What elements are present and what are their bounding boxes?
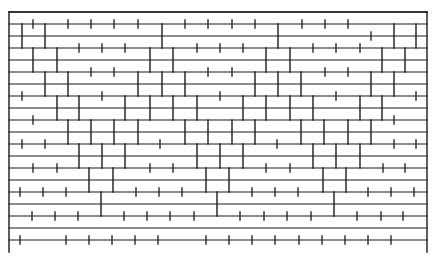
brick-pattern-diagram [0, 0, 437, 257]
horizontal-course-lines [9, 12, 427, 240]
